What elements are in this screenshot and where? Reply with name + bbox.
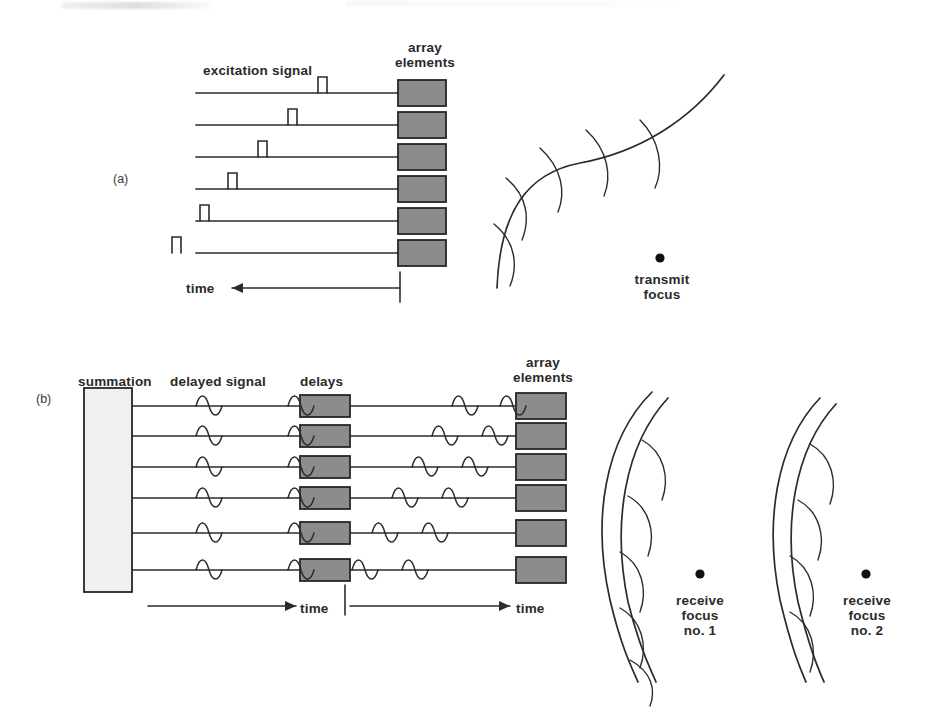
time-axis-b-left-head (285, 601, 296, 611)
time-axis-b-right-head (499, 601, 510, 611)
receive1-wavelet-arc-2 (620, 552, 643, 612)
excitation-pulse-5 (200, 205, 209, 221)
receive1-wavefront-outer (602, 392, 652, 682)
array-element-a-6 (398, 240, 446, 266)
receive-focus-1-dot (695, 569, 704, 578)
array-element-a-1 (398, 80, 446, 106)
time-axis-a-head (232, 283, 243, 293)
delay-block-6 (300, 559, 350, 581)
receive2-wavelet-arc-4 (810, 444, 833, 504)
excitation-pulse-1 (318, 77, 327, 93)
array-element-b-3 (516, 454, 566, 480)
array-element-b-6 (516, 557, 566, 583)
delay-block-4 (300, 487, 350, 509)
transmit-wavelet-arc-4 (506, 178, 526, 240)
array-element-b-5 (516, 520, 566, 546)
receive1-wavelet-arc-1 (628, 496, 651, 556)
figure-vector-layer (0, 0, 928, 717)
receive2-wavelet-arc-1 (798, 500, 821, 560)
delay-block-1 (300, 395, 350, 417)
transmit-focus-dot (655, 253, 664, 262)
receive-focus-2-dot (861, 569, 870, 578)
receive1-wavefront-inner (621, 398, 668, 682)
array-element-a-2 (398, 112, 446, 138)
array-element-a-5 (398, 208, 446, 234)
delay-block-5 (300, 522, 350, 544)
receive2-wavefront-outer (773, 398, 820, 682)
beamforming-figure: (a) excitation signal array elements tim… (0, 0, 928, 717)
excitation-pulse-4 (228, 173, 237, 189)
array-element-b-4 (516, 485, 566, 511)
summation-box (84, 388, 132, 592)
transmit-wavelet-arc-1 (640, 120, 660, 188)
delay-block-3 (300, 456, 350, 478)
receive2-wavelet-arc-2 (790, 556, 813, 616)
array-element-b-2 (516, 423, 566, 449)
transmit-wavefront-main (497, 75, 724, 288)
delay-block-2 (300, 425, 350, 447)
transmit-wavelet-arc-2 (586, 130, 608, 196)
excitation-pulse-3 (258, 141, 267, 157)
array-element-a-3 (398, 144, 446, 170)
transmit-wavelet-arc-3 (540, 148, 562, 212)
excitation-pulse-6 (172, 237, 181, 253)
array-element-b-1 (516, 393, 566, 419)
excitation-pulse-2 (288, 109, 297, 125)
receive1-wavelet-arc-4 (642, 440, 665, 500)
array-element-a-4 (398, 176, 446, 202)
receive1-wavelet-arc-3 (620, 608, 643, 668)
